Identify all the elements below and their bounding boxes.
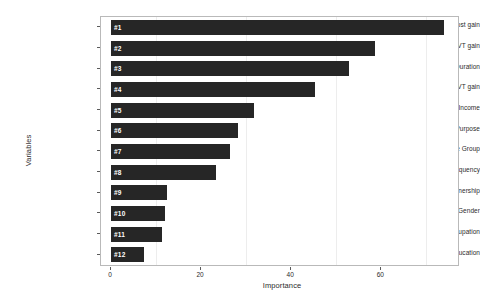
bar-rank-label: #9 [114, 185, 122, 200]
bar-rank-label: #8 [114, 165, 122, 180]
bar: #6 [111, 123, 238, 138]
bar-row: #6 [101, 123, 458, 138]
bar: #10 [111, 206, 165, 221]
x-axis-tick-label: 60 [368, 271, 392, 278]
bar-row: #7 [101, 144, 458, 159]
bar-rank-label: #1 [114, 20, 122, 35]
bar-row: #12 [101, 247, 458, 262]
bar-row: #5 [101, 103, 458, 118]
plot-area: #1#2#3#4#5#6#7#8#9#10#11#12 [101, 17, 458, 265]
bar-rank-label: #3 [114, 61, 122, 76]
plot-panel: #1#2#3#4#5#6#7#8#9#10#11#12 [100, 16, 459, 266]
bar-row: #4 [101, 82, 458, 97]
x-axis-tick-label: 20 [188, 271, 212, 278]
x-axis-title: Importance [100, 281, 464, 290]
x-axis-tick-label: 40 [278, 271, 302, 278]
bar: #8 [111, 165, 216, 180]
bar: #7 [111, 144, 230, 159]
bar-rank-label: #10 [114, 206, 125, 221]
bar: #9 [111, 185, 167, 200]
y-axis-title: Variables [18, 0, 38, 301]
bar-rank-label: #5 [114, 103, 122, 118]
bar: #1 [111, 20, 444, 35]
x-axis-tick-mark [380, 267, 381, 270]
x-axis-tick-mark [200, 267, 201, 270]
bar-row: #8 [101, 165, 458, 180]
bar: #5 [111, 103, 254, 118]
bar-row: #2 [101, 41, 458, 56]
bar: #2 [111, 41, 375, 56]
bar-rank-label: #7 [114, 144, 122, 159]
bar: #12 [111, 247, 144, 262]
bar-row: #3 [101, 61, 458, 76]
x-axis-tick-mark [110, 267, 111, 270]
bar-row: #11 [101, 227, 458, 242]
x-axis-tick-label: 0 [98, 271, 122, 278]
bar-row: #10 [101, 206, 458, 221]
bar: #3 [111, 61, 349, 76]
bar: #11 [111, 227, 162, 242]
bar-row: #9 [101, 185, 458, 200]
bar-rank-label: #2 [114, 41, 122, 56]
bar-rank-label: #6 [114, 123, 122, 138]
x-axis-tick-mark [290, 267, 291, 270]
bar-rank-label: #4 [114, 82, 122, 97]
bar-rank-label: #12 [114, 247, 125, 262]
bar: #4 [111, 82, 315, 97]
bar-rank-label: #11 [114, 227, 125, 242]
bar-row: #1 [101, 20, 458, 35]
variable-importance-bar-chart: Variables Importance Cost gainIVT gainTr… [0, 0, 480, 301]
